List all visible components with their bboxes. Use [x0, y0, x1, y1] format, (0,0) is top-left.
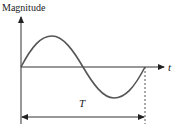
period-label: T: [79, 98, 85, 109]
diagram-canvas: [0, 0, 181, 126]
sine-wave-diagram: Magnitude t T: [0, 0, 181, 126]
y-axis-label: Magnitude: [2, 3, 45, 13]
x-axis-label: t: [168, 62, 171, 73]
